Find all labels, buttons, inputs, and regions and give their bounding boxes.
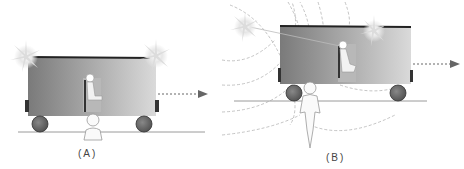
train-bumper-right	[410, 70, 413, 82]
relativity-diagram	[0, 0, 464, 169]
train-bumper-right	[155, 100, 159, 112]
seated-observer-icon	[338, 41, 356, 82]
ground-observer-icon	[300, 82, 320, 148]
train-roof	[280, 26, 411, 27]
train-roof	[30, 57, 154, 58]
wheel-left	[286, 85, 302, 101]
motion-arrow-icon	[158, 90, 208, 98]
caption-a: (A)	[78, 148, 97, 159]
wheel-right	[136, 116, 152, 132]
panel-a	[10, 39, 208, 140]
train-bumper-left	[278, 68, 281, 82]
wheel-right	[390, 85, 406, 101]
seated-observer-icon	[83, 74, 102, 112]
wheel-left	[32, 116, 48, 132]
train-bumper-left	[25, 100, 29, 112]
panel-b	[222, 2, 460, 148]
motion-arrow-icon	[413, 60, 460, 68]
caption-b: (B)	[326, 152, 345, 163]
ground-observer-icon	[84, 114, 102, 140]
flash-left-icon	[230, 12, 258, 42]
